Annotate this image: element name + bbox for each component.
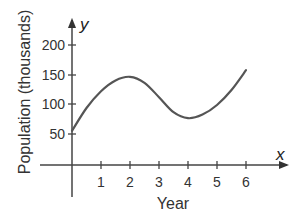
x-tick-label: 1 [97, 174, 105, 190]
x-tick-labels: 1 2 3 4 5 6 [97, 174, 250, 190]
y-axis-title: Population (thousands) [16, 10, 33, 175]
x-tick-label: 2 [126, 174, 134, 190]
y-tick-label: 200 [42, 37, 66, 53]
x-tick-label: 4 [184, 174, 192, 190]
y-variable-label: y [79, 15, 90, 34]
x-variable-label: x [275, 145, 285, 164]
population-curve [72, 70, 246, 131]
x-tick-label: 5 [213, 174, 221, 190]
population-chart: 1 2 3 4 5 6 50 100 150 200 y x Year Popu… [0, 0, 296, 223]
x-tick-label: 6 [242, 174, 250, 190]
x-axis-title: Year [157, 195, 190, 212]
y-tick-labels: 50 100 150 200 [42, 37, 66, 142]
y-tick-label: 50 [49, 126, 65, 142]
y-tick-label: 150 [42, 67, 66, 83]
y-tick-label: 100 [42, 96, 66, 112]
x-tick-label: 3 [155, 174, 163, 190]
